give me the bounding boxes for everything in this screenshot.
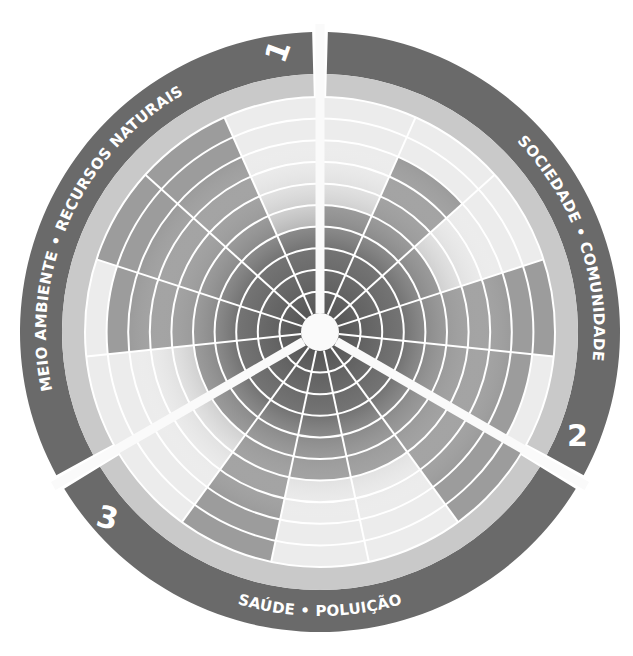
sustainability-wheel: MEIO AMBIENTE • RECURSOS NATURAIS SOCIED… <box>0 0 633 656</box>
sector-2-number: 2 <box>567 418 588 453</box>
center-hub <box>301 313 339 351</box>
